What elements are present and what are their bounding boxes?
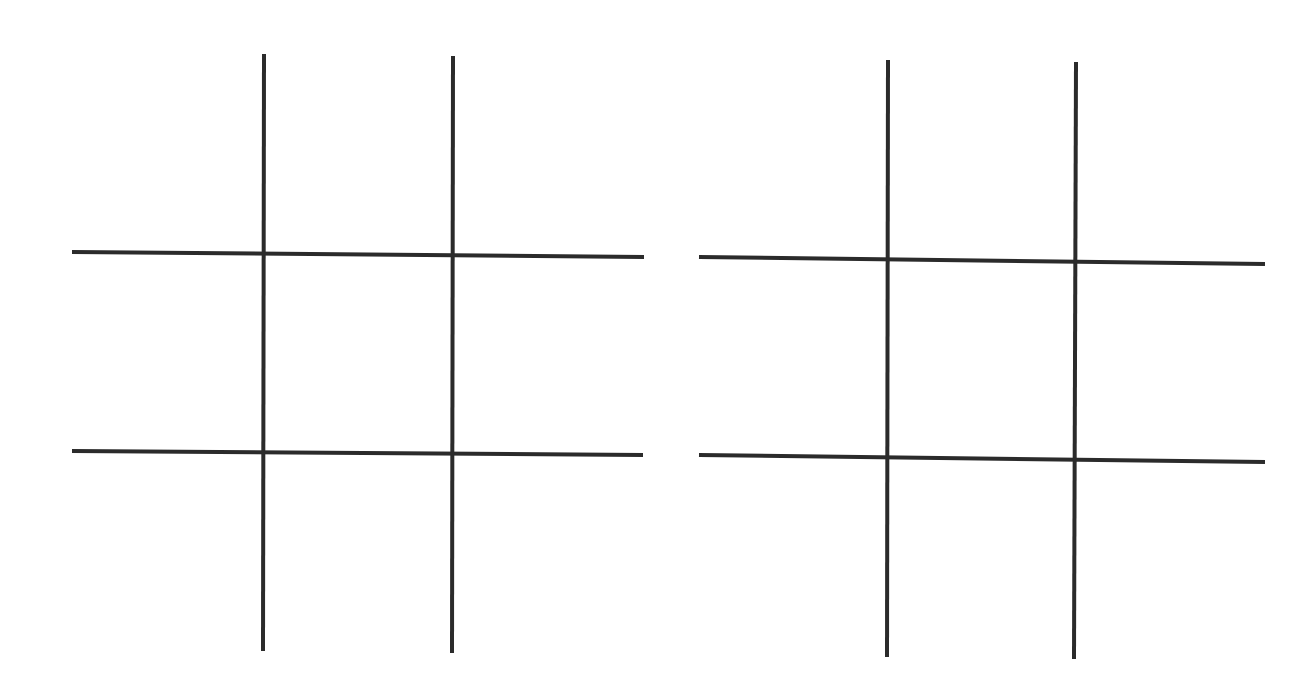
- grid-line-vertical-2: [452, 56, 453, 653]
- grid-line-horizontal-1: [72, 252, 644, 257]
- board-right[interactable]: [699, 60, 1265, 659]
- grid-line-horizontal-2: [72, 451, 643, 455]
- grid-line-horizontal-1: [699, 257, 1265, 264]
- game-canvas: [0, 0, 1314, 688]
- board-left[interactable]: [72, 54, 644, 653]
- grid-line-horizontal-2: [699, 455, 1265, 462]
- grid-line-vertical-1: [887, 60, 888, 657]
- grid-line-vertical-1: [263, 54, 264, 651]
- grid-line-vertical-2: [1074, 62, 1076, 659]
